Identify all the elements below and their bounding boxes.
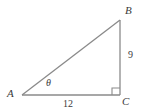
side-label-vertical: 9 — [128, 50, 133, 60]
vertex-label-a: A — [7, 88, 14, 99]
right-angle-marker-icon — [112, 88, 120, 95]
right-triangle-figure: A B C θ 12 9 — [0, 0, 145, 112]
vertex-label-b: B — [125, 5, 132, 16]
vertex-label-c: C — [122, 96, 129, 107]
side-label-base: 12 — [63, 99, 73, 109]
hypotenuse-segment-AB — [22, 20, 120, 95]
angle-label-theta: θ — [46, 78, 51, 88]
